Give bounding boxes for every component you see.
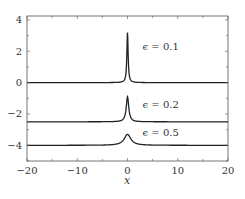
line-chart: −20−1001020420−2−4 ϵ = 0.1ϵ = 0.2ϵ = 0.5… (0, 0, 245, 199)
x-axis-label: x (124, 174, 131, 187)
y-tick-label: 2 (16, 46, 22, 57)
series-line (27, 32, 228, 82)
y-tick-label: 0 (16, 77, 22, 88)
y-tick-label: 4 (16, 14, 22, 25)
series-line (27, 97, 228, 122)
series-annotation: ϵ = 0.5 (143, 127, 179, 138)
y-tick-label: −4 (7, 140, 22, 151)
x-tick-label: 20 (222, 165, 235, 176)
series-group (27, 32, 228, 145)
series-annotation: ϵ = 0.2 (143, 99, 179, 110)
series-annotation: ϵ = 0.1 (143, 41, 179, 52)
series-line (27, 134, 228, 145)
x-tick-label: −10 (67, 165, 88, 176)
axis-ticks: −20−1001020420−2−4 (7, 14, 234, 176)
x-tick-label: 10 (171, 165, 184, 176)
annotations: ϵ = 0.1ϵ = 0.2ϵ = 0.5 (143, 41, 179, 138)
y-tick-label: −2 (7, 108, 22, 119)
x-tick-label: −20 (16, 165, 37, 176)
